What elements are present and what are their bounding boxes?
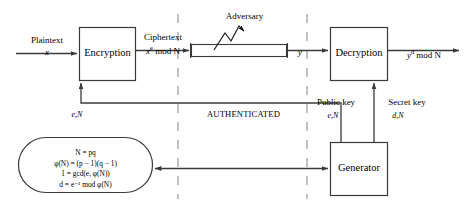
plaintext-variable-label: x — [16, 48, 78, 57]
decryption-box-label: Decryption — [330, 47, 388, 58]
encryption-box-label: Encryption — [79, 47, 136, 58]
decrypted-output-label: yd mod N — [390, 49, 458, 60]
authenticated-label: AUTHENTICATED — [186, 110, 301, 119]
ciphertext-label: Ciphertext — [137, 33, 189, 42]
equation-row: φ(N) = (p − 1)(q − 1) — [23, 159, 148, 170]
insecure-channel-rect — [192, 45, 287, 57]
channel-output-label: y — [290, 48, 310, 57]
encryption-key-value: e,N — [72, 110, 83, 119]
ciphertext-expression-label: xe mod N — [137, 45, 189, 56]
generator-box-label: Generator — [330, 162, 388, 173]
adversary-label: Adversary — [202, 12, 287, 21]
plaintext-label: Plaintext — [16, 36, 78, 45]
ciphertext-modulus: mod N — [155, 46, 180, 56]
public-key-label: Public key — [303, 98, 369, 107]
decrypted-modulus: mod N — [416, 50, 441, 60]
key-parameter-equations: N = pq φ(N) = (p − 1)(q − 1) 1 = gcd(e, … — [23, 148, 148, 191]
secret-key-label: Secret key — [374, 98, 440, 107]
equation-row: d = e⁻¹ mod φ(N) — [23, 180, 148, 191]
encryption-key-label: e,N — [57, 111, 97, 119]
equation-row: 1 = gcd(e, φ(N)) — [23, 169, 148, 180]
public-key-value: e,N — [328, 111, 339, 120]
equation-row: N = pq — [23, 148, 148, 159]
public-key-value-label: e,N — [313, 112, 353, 120]
ciphertext-exponent: e — [150, 44, 153, 51]
secret-key-value-label: d,N — [378, 112, 418, 120]
secret-key-value: d,N — [392, 111, 403, 120]
rsa-cryptosystem-diagram: Encryption Decryption Generator Plaintex… — [0, 0, 467, 209]
decrypted-exponent: d — [411, 48, 414, 55]
